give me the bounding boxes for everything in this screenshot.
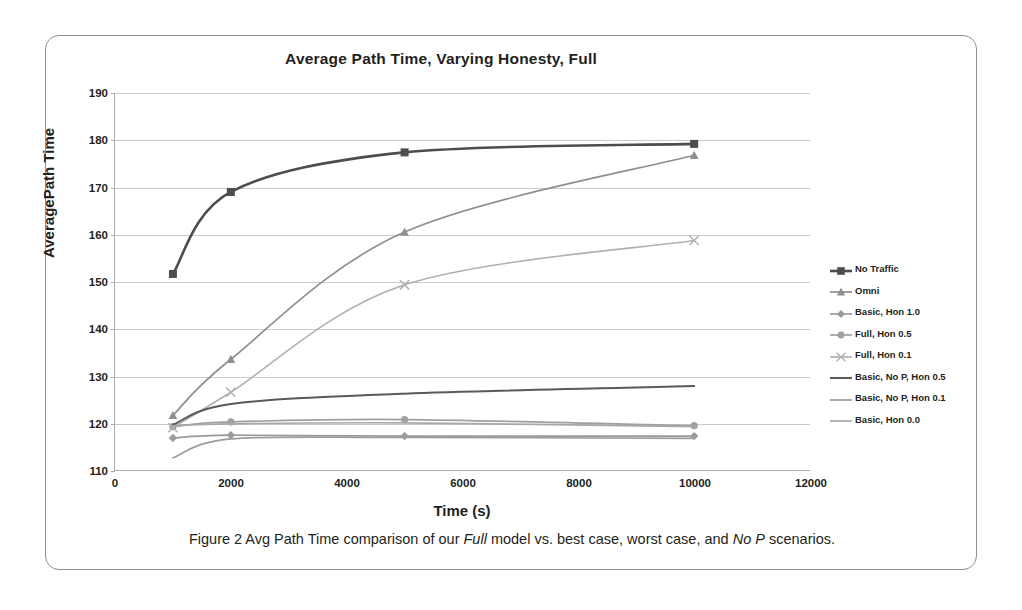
y-axis-tick-label: 170	[89, 182, 108, 194]
legend-item-1[interactable]: Omni	[829, 280, 979, 302]
x-axis-tick-label: 6000	[450, 477, 476, 489]
data-point-cross	[400, 280, 409, 289]
legend-marker-line-icon	[829, 370, 853, 382]
plot-area: 110120130140150160170180190 020004000600…	[114, 93, 810, 471]
caption-emphasis-nop: No P	[733, 531, 765, 547]
data-point-diamond	[169, 434, 177, 442]
legend-item-2[interactable]: Basic, Hon 1.0	[829, 301, 979, 323]
legend-label-2: Basic, Hon 1.0	[855, 306, 920, 317]
data-point-triangle	[400, 228, 409, 236]
x-axis-tick-label: 4000	[334, 477, 360, 489]
chart-series-plot	[115, 93, 810, 470]
legend-label-1: Omni	[855, 285, 879, 296]
data-point-triangle	[690, 151, 699, 159]
legend-label-4: Full, Hon 0.1	[855, 349, 911, 360]
chart-legend: No TrafficOmniBasic, Hon 1.0Full, Hon 0.…	[829, 258, 979, 430]
y-axis-tick-label: 180	[89, 134, 108, 146]
y-axis-tick-label: 190	[89, 87, 108, 99]
legend-marker-triangle-icon	[829, 284, 853, 296]
data-point-square	[837, 267, 845, 275]
series-line-6	[173, 437, 694, 458]
series-line-5	[173, 386, 694, 425]
legend-marker-cross-icon	[829, 349, 853, 361]
figure-card: Average Path Time, Varying Honesty, Full…	[45, 35, 977, 570]
data-point-circle	[838, 332, 845, 339]
series-line-0	[173, 144, 694, 274]
data-point-square	[690, 140, 698, 148]
legend-item-6[interactable]: Basic, No P, Hon 0.1	[829, 387, 979, 409]
data-point-diamond	[837, 310, 845, 318]
legend-item-7[interactable]: Basic, Hon 0.0	[829, 409, 979, 431]
legend-label-7: Basic, Hon 0.0	[855, 414, 920, 425]
legend-label-3: Full, Hon 0.5	[855, 328, 911, 339]
legend-marker-line-icon	[829, 392, 853, 404]
series-line-4	[173, 240, 694, 427]
legend-label-6: Basic, No P, Hon 0.1	[855, 392, 946, 403]
legend-marker-circle-icon	[829, 327, 853, 339]
x-axis-tick-label: 0	[112, 477, 118, 489]
caption-part-1: Figure 2 Avg Path Time comparison of our	[189, 531, 464, 547]
legend-label-5: Basic, No P, Hon 0.5	[855, 371, 946, 382]
y-axis-tick-label: 120	[89, 418, 108, 430]
x-axis-tick-label: 12000	[795, 477, 827, 489]
data-point-diamond	[400, 432, 408, 440]
legend-label-0: No Traffic	[855, 263, 899, 274]
x-axis-tick-label: 10000	[679, 477, 711, 489]
legend-marker-diamond-icon	[829, 306, 853, 318]
legend-item-0[interactable]: No Traffic	[829, 258, 979, 280]
legend-item-4[interactable]: Full, Hon 0.1	[829, 344, 979, 366]
chart-title: Average Path Time, Varying Honesty, Full	[46, 50, 836, 68]
x-axis-tick-label: 8000	[566, 477, 592, 489]
y-axis-tick-label: 130	[89, 371, 108, 383]
legend-item-3[interactable]: Full, Hon 0.5	[829, 323, 979, 345]
caption-emphasis-full: Full	[464, 531, 487, 547]
y-axis-title: AveragePath Time	[40, 128, 57, 258]
legend-marker-line-icon	[829, 413, 853, 425]
legend-item-5[interactable]: Basic, No P, Hon 0.5	[829, 366, 979, 388]
figure-caption: Figure 2 Avg Path Time comparison of our…	[46, 531, 978, 547]
y-axis-tick-label: 140	[89, 323, 108, 335]
caption-part-3: scenarios.	[765, 531, 835, 547]
y-axis-tick-label: 150	[89, 276, 108, 288]
data-point-square	[169, 270, 177, 278]
legend-marker-square-icon	[829, 263, 853, 275]
data-point-square	[401, 148, 409, 156]
y-axis-tick-label: 110	[89, 465, 108, 477]
y-axis-tick-label: 160	[89, 229, 108, 241]
y-axis-tick-mark	[111, 471, 115, 472]
caption-part-2: model vs. best case, worst case, and	[487, 531, 733, 547]
data-point-square	[227, 188, 235, 196]
series-line-1	[173, 155, 694, 415]
x-axis-title: Time (s)	[114, 502, 810, 519]
data-point-circle	[691, 422, 698, 429]
data-point-cross	[226, 388, 235, 397]
x-axis-tick-label: 2000	[218, 477, 244, 489]
